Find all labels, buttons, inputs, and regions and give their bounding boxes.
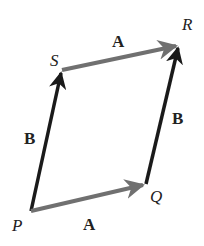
vector-label-a-bottom: A (83, 215, 96, 234)
point-label-r: R (181, 15, 193, 34)
point-label-q: Q (150, 187, 162, 206)
vector-b-ps (31, 73, 61, 211)
point-label-s: S (50, 51, 59, 70)
point-label-p: P (11, 216, 22, 235)
vector-a-pq (31, 185, 143, 211)
vector-label-a-top: A (112, 32, 125, 51)
vector-label-b-right: B (172, 109, 183, 128)
parallelogram-diagram: S R Q P A A B B (0, 0, 204, 246)
vector-label-b-left: B (24, 129, 35, 148)
